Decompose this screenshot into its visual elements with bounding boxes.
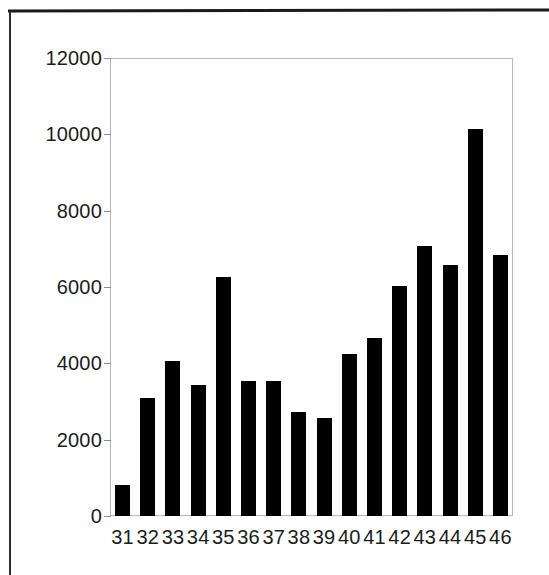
- x-tick-label: 40: [335, 527, 363, 548]
- y-tick-mark: [104, 211, 111, 212]
- y-tick-mark: [104, 134, 111, 135]
- bar: [165, 361, 180, 516]
- y-tick-mark: [104, 287, 111, 288]
- bar-series: [110, 58, 513, 516]
- x-tick-label: 41: [360, 527, 388, 548]
- x-tick-label: 33: [159, 527, 187, 548]
- bar: [367, 338, 382, 516]
- bar: [291, 412, 306, 516]
- x-tick-label: 32: [134, 527, 162, 548]
- bar: [216, 277, 231, 516]
- y-tick-mark: [104, 440, 111, 441]
- bar: [468, 129, 483, 516]
- bar: [317, 418, 332, 516]
- x-tick-label: 43: [411, 527, 439, 548]
- bar: [392, 286, 407, 516]
- x-tick-label: 45: [461, 527, 489, 548]
- x-tick-label: 46: [486, 527, 514, 548]
- bar: [191, 385, 206, 516]
- y-tick-label: 0: [30, 506, 102, 526]
- y-tick-mark: [104, 58, 111, 59]
- bar: [417, 246, 432, 516]
- x-tick-label: 42: [386, 527, 414, 548]
- y-tick-label: 10000: [30, 124, 102, 144]
- bar: [140, 398, 155, 516]
- bar: [493, 255, 508, 516]
- x-tick-label: 37: [260, 527, 288, 548]
- x-tick-label: 31: [109, 527, 137, 548]
- bar: [266, 381, 281, 516]
- x-tick-label: 44: [436, 527, 464, 548]
- bar: [342, 354, 357, 516]
- bar-chart: 020004000600080001000012000 313233343536…: [0, 0, 549, 575]
- x-tick-label: 35: [209, 527, 237, 548]
- y-tick-label: 12000: [30, 48, 102, 68]
- bar: [241, 381, 256, 516]
- y-tick-mark: [104, 363, 111, 364]
- y-tick-label: 2000: [30, 430, 102, 450]
- x-tick-label: 36: [235, 527, 263, 548]
- x-tick-label: 39: [310, 527, 338, 548]
- y-tick-label: 8000: [30, 201, 102, 221]
- y-tick-label: 4000: [30, 353, 102, 373]
- y-tick-mark: [104, 516, 111, 517]
- y-axis: 020004000600080001000012000: [26, 0, 102, 575]
- x-axis: 31323334353637383940414243444546: [110, 527, 513, 555]
- bar: [115, 485, 130, 516]
- x-tick-label: 38: [285, 527, 313, 548]
- x-tick-label: 34: [184, 527, 212, 548]
- y-tick-label: 6000: [30, 277, 102, 297]
- bar: [443, 265, 458, 516]
- scanned-page: 020004000600080001000012000 313233343536…: [0, 0, 549, 575]
